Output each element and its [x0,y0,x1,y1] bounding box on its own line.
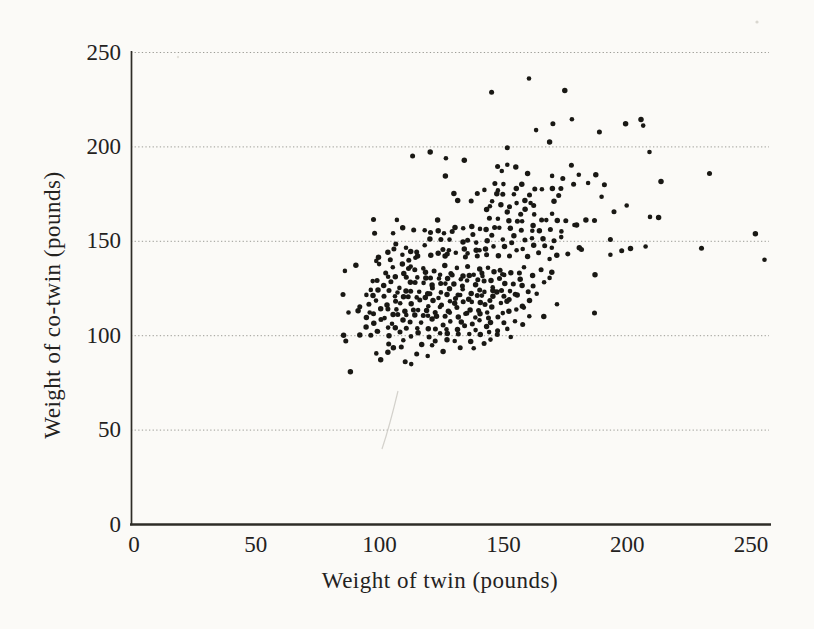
data-point [508,289,513,294]
data-point [421,313,426,318]
data-point [527,76,532,81]
data-point [408,320,413,325]
data-point [398,301,403,306]
data-point [432,268,437,273]
data-point [515,219,520,224]
data-point [586,181,591,186]
data-point [429,316,434,321]
data-point [487,298,492,303]
data-point [385,249,390,254]
data-point [346,310,351,315]
data-point [419,342,424,347]
data-point [547,139,552,144]
data-point [534,128,539,133]
data-point [445,276,450,281]
data-point [412,267,417,272]
x-tick-label: 100 [362,532,397,557]
data-point [478,227,483,232]
data-point [505,145,510,150]
data-point [527,298,532,303]
data-point [506,218,511,223]
data-point [426,313,431,318]
data-point [478,300,483,305]
data-point [465,264,470,269]
data-point [548,227,553,232]
data-point [482,188,487,193]
data-point [473,328,478,333]
data-point [409,334,414,339]
data-point [393,294,398,299]
data-point [445,331,450,336]
data-point [506,309,511,314]
data-point [447,286,452,291]
data-point [574,222,579,227]
data-point [602,182,607,187]
data-point [509,240,514,245]
data-point [480,274,485,279]
data-point [623,121,628,126]
paper-speck [755,20,758,23]
data-point [357,332,362,337]
data-point [525,171,530,176]
data-point [470,232,475,237]
data-point [592,272,597,277]
data-point [363,324,368,329]
data-point [509,335,514,340]
data-point [425,354,430,359]
y-axis-label: Weight of co-twin (pounds) [40,150,66,460]
data-point [404,245,409,250]
data-point [502,244,507,249]
data-point [505,209,510,214]
data-point [422,228,427,233]
data-point [364,315,369,320]
data-point [348,369,353,374]
data-point [386,341,391,346]
data-point [390,312,395,317]
data-point [470,300,475,305]
data-point [648,215,653,220]
data-point [394,307,399,312]
data-point [428,230,433,235]
data-point [502,273,507,278]
data-point [501,294,506,299]
data-point [385,350,390,355]
data-point [385,306,390,311]
data-point [577,172,582,177]
data-point [628,246,633,251]
data-point [461,226,466,231]
x-tick-label: 50 [244,532,267,557]
data-point [534,291,539,296]
data-point [404,313,409,318]
data-point [386,288,391,293]
data-point [375,287,380,292]
data-point [527,314,532,319]
y-tick-label: 100 [87,323,122,348]
data-point [550,121,555,126]
data-point [497,276,502,281]
data-point [376,329,381,334]
data-point [507,297,512,302]
data-point [537,228,542,233]
data-point [440,247,445,252]
data-point [490,288,495,293]
data-point [443,281,448,286]
data-point [512,192,517,197]
data-point [563,218,568,223]
data-point [475,277,480,282]
data-point [501,182,506,187]
data-point [541,314,546,319]
data-point [343,338,348,343]
data-point [371,311,376,316]
data-point [436,296,441,301]
data-point [477,287,482,292]
data-point [404,326,409,331]
data-point [453,296,458,301]
data-point [517,276,522,281]
data-point [450,229,455,234]
data-point [539,217,544,222]
data-point [555,218,560,223]
data-point [341,332,346,337]
y-tick-label: 150 [87,228,122,253]
data-point [522,238,527,243]
data-point [583,217,588,222]
